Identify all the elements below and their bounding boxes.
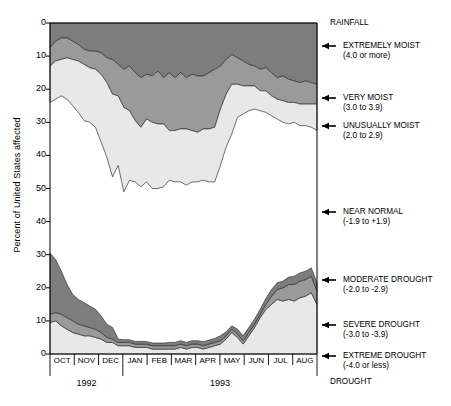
legend-item-extreme-drought: EXTREME DROUGHT(-4.0 or less) [343, 351, 426, 370]
legend-item-extremely-moist: EXTREMELY MOIST(4.0 or more) [343, 41, 420, 60]
drought-corner-label: DROUGHT [330, 377, 371, 386]
legend-range-severe-drought: (-3.0 to -3.9) [343, 330, 420, 340]
legend-arrowhead-unusually-moist [322, 123, 329, 129]
legend-arrowhead-severe-drought [322, 322, 329, 328]
legend-range-extremely-moist: (4.0 or more) [343, 51, 420, 61]
chart-page: Percent of United States affected 010203… [0, 0, 451, 406]
legend-item-moderate-drought: MODERATE DROUGHT(-2.0 to -2.9) [343, 275, 432, 294]
legend-arrowhead-very-moist [322, 95, 329, 101]
legend-label-near-normal: NEAR NORMAL [343, 207, 403, 217]
legend-label-extremely-moist: EXTREMELY MOIST [343, 41, 420, 51]
legend-range-extreme-drought: (-4.0 or less) [343, 361, 426, 371]
legend-label-extreme-drought: EXTREME DROUGHT [343, 351, 426, 361]
legend-label-unusually-moist: UNUSUALLY MOIST [343, 121, 420, 131]
legend-item-near-normal: NEAR NORMAL(-1.9 to +1.9) [343, 207, 403, 226]
legend-range-unusually-moist: (2.0 to 2.9) [343, 131, 420, 141]
legend-arrowhead-extremely-moist [322, 43, 329, 49]
rainfall-corner-label: RAINFALL [330, 18, 369, 27]
legend-range-near-normal: (-1.9 to +1.9) [343, 217, 403, 227]
legend-label-severe-drought: SEVERE DROUGHT [343, 320, 420, 330]
legend-item-very-moist: VERY MOIST(3.0 to 3.9) [343, 93, 393, 112]
y-axis-ticks [46, 23, 50, 354]
x-axis-ticks [50, 354, 317, 376]
legend-label-very-moist: VERY MOIST [343, 93, 393, 103]
legend-item-unusually-moist: UNUSUALLY MOIST(2.0 to 2.9) [343, 121, 420, 140]
legend-range-moderate-drought: (-2.0 to -2.9) [343, 285, 432, 295]
legend-arrows [322, 43, 336, 359]
legend-arrowhead-extreme-drought [322, 353, 329, 359]
legend-arrowhead-moderate-drought [322, 277, 329, 283]
legend-range-very-moist: (3.0 to 3.9) [343, 103, 393, 113]
legend-arrowhead-near-normal [322, 209, 329, 215]
legend-label-moderate-drought: MODERATE DROUGHT [343, 275, 432, 285]
area-chart-plot [0, 0, 451, 406]
legend-item-severe-drought: SEVERE DROUGHT(-3.0 to -3.9) [343, 320, 420, 339]
